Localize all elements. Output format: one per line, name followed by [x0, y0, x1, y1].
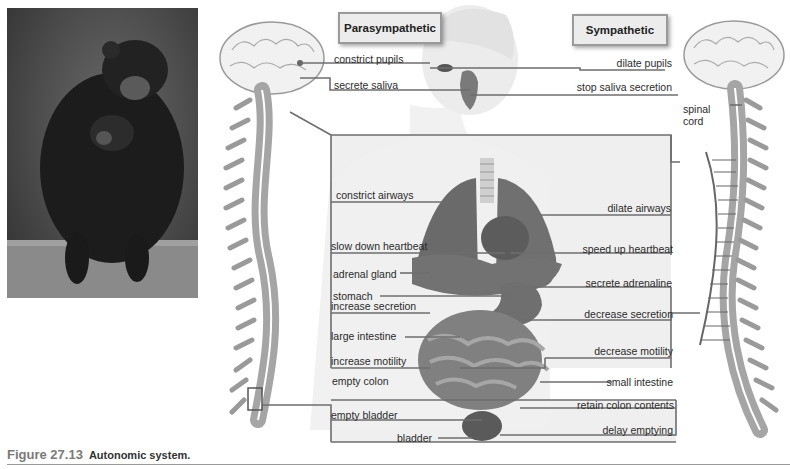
figure-caption-text: Autonomic system.	[89, 449, 190, 461]
label-adrenal-gland: adrenal gland	[333, 268, 397, 280]
bladder	[462, 411, 502, 441]
figure-caption: Figure 27.13Autonomic system.	[7, 447, 190, 462]
label-increase-motility: increase motility	[331, 355, 406, 367]
label-constrict-pupils: constrict pupils	[334, 53, 403, 65]
right-brain-icon	[684, 21, 784, 89]
left-brain-icon	[220, 22, 324, 94]
label-constrict-airways: constrict airways	[336, 189, 414, 201]
label-stomach: stomach	[333, 290, 373, 302]
left-spine-icon	[226, 90, 271, 420]
caption-divider	[7, 464, 790, 465]
label-stop-saliva-secretion: stop saliva secretion	[577, 81, 672, 93]
label-slow-down-heartbeat: slow down heartbeat	[331, 240, 427, 252]
label-secrete-saliva: secrete saliva	[334, 79, 398, 91]
label-delay-emptying: delay emptying	[602, 424, 673, 436]
label-speed-up-heartbeat: speed up heartbeat	[583, 243, 674, 255]
label-decrease-secretion: decrease secretion	[584, 308, 673, 320]
label-dilate-airways: dilate airways	[607, 202, 671, 214]
label-dilate-pupils: dilate pupils	[617, 57, 672, 69]
label-empty-bladder: empty bladder	[331, 409, 398, 421]
label-bladder: bladder	[397, 432, 432, 444]
label-secrete-adrenaline: secrete adrenaline	[586, 277, 672, 289]
parasympathetic-header: Parasympathetic	[338, 12, 442, 44]
label-empty-colon: empty colon	[332, 375, 389, 387]
label-small-intestine: small intestine	[606, 376, 673, 388]
label-decrease-motility: decrease motility	[594, 345, 673, 357]
figure-number: Figure 27.13	[7, 447, 83, 462]
sympathetic-header: Sympathetic	[572, 14, 668, 46]
label-retain-colon-contents: retain colon contents	[577, 399, 674, 411]
right-spine-icon	[700, 88, 776, 430]
label-spinal-cord: spinal cord	[683, 103, 713, 127]
label-large-intestine: large intestine	[331, 330, 396, 342]
